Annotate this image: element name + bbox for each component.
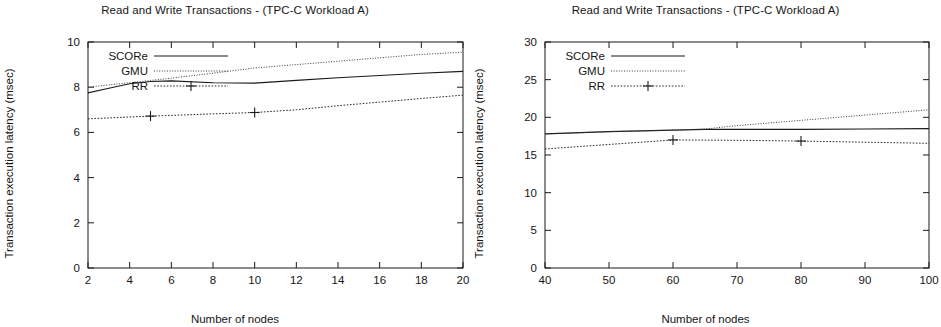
legend-label-score: SCORe (565, 50, 605, 62)
legend-label-rr: RR (588, 80, 605, 92)
legend-label-score: SCORe (108, 50, 148, 62)
legend-label-rr: RR (131, 80, 148, 92)
series-line-rr (88, 95, 463, 119)
x-tick-label: 12 (290, 274, 303, 286)
x-tick-label: 8 (210, 274, 216, 286)
y-tick-label: 4 (74, 172, 81, 184)
x-tick-label: 90 (859, 274, 872, 286)
x-tick-label: 40 (539, 274, 552, 286)
legend-label-gmu: GMU (121, 65, 148, 77)
y-tick-label: 15 (524, 149, 537, 161)
x-tick-label: 60 (667, 274, 680, 286)
x-tick-label: 100 (919, 274, 938, 286)
y-tick-label: 6 (74, 126, 80, 138)
x-tick-label: 10 (248, 274, 261, 286)
x-tick-label: 16 (373, 274, 386, 286)
plot-area-left: 02468102468101214161820SCOReGMURR (0, 0, 470, 327)
x-tick-label: 18 (415, 274, 428, 286)
chart-panel-right: Read and Write Transactions - (TPC-C Wor… (470, 0, 941, 327)
y-tick-label: 10 (67, 36, 80, 48)
chart-panel-left: Read and Write Transactions - (TPC-C Wor… (0, 0, 470, 327)
series-line-score (545, 129, 929, 134)
y-tick-label: 25 (524, 74, 537, 86)
y-tick-label: 10 (524, 187, 537, 199)
x-tick-label: 6 (168, 274, 174, 286)
legend-label-gmu: GMU (578, 65, 605, 77)
x-tick-label: 70 (731, 274, 744, 286)
y-tick-label: 5 (531, 224, 537, 236)
y-tick-label: 0 (74, 262, 80, 274)
x-tick-label: 2 (85, 274, 91, 286)
y-tick-label: 2 (74, 217, 80, 229)
x-tick-label: 50 (603, 274, 616, 286)
y-tick-label: 8 (74, 81, 80, 93)
series-line-gmu (545, 110, 929, 134)
y-tick-label: 20 (524, 111, 537, 123)
x-tick-label: 14 (332, 274, 345, 286)
y-tick-label: 30 (524, 36, 537, 48)
plot-area-right: 051015202530405060708090100SCOReGMURR (470, 0, 941, 327)
x-tick-label: 80 (795, 274, 808, 286)
y-tick-label: 0 (531, 262, 537, 274)
series-line-rr (545, 140, 929, 149)
x-tick-label: 4 (126, 274, 133, 286)
x-tick-label: 20 (457, 274, 470, 286)
figure-two-panel-line-charts: Read and Write Transactions - (TPC-C Wor… (0, 0, 941, 327)
